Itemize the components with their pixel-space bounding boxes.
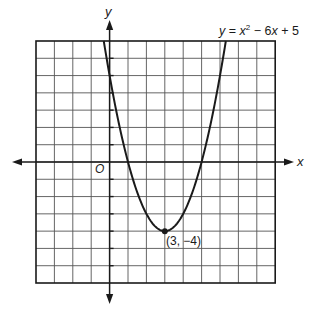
origin-label: O	[95, 162, 104, 176]
vertex-label: (3, −4)	[166, 234, 201, 248]
y-axis-up-arrow-icon	[106, 20, 113, 30]
x-axis-label: x	[296, 154, 304, 169]
y-axis-label: y	[104, 4, 113, 19]
x-axis-right-arrow-icon	[284, 159, 294, 166]
equation-label: y = x2 − 6x + 5	[218, 23, 299, 38]
parabola-graph: y x O (3, −4) y = x2 − 6x + 5	[0, 0, 318, 310]
y-axis-down-arrow-icon	[106, 294, 113, 304]
x-axis-left-arrow-icon	[12, 159, 22, 166]
